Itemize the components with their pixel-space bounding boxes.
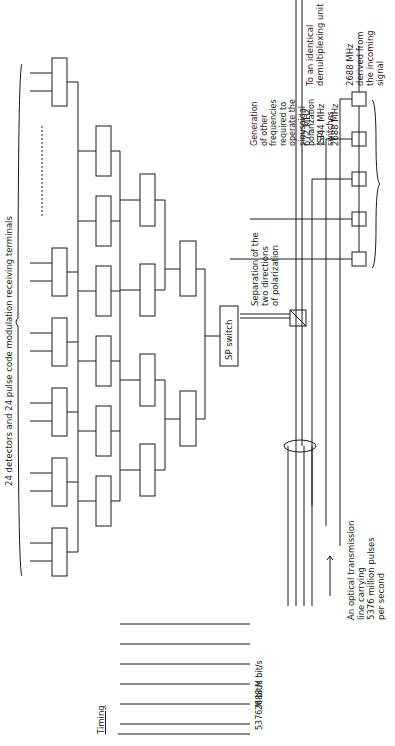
polarization-label: Separation of the two directions of pola… <box>250 232 280 306</box>
frequency-label-1: 1344 MHz <box>316 103 326 146</box>
clock-label: 2688 MHz derived from the incoming signa… <box>345 30 385 86</box>
timing-pulse-trains <box>120 624 250 724</box>
sp-switch-tree <box>16 58 238 576</box>
timing-rate-1: 2688 M bit/s <box>255 660 265 710</box>
frequency-label-0: 2688 MHz <box>330 103 340 146</box>
output-label: To an identical demultiplexing unit <box>305 3 325 86</box>
optical-line-label: An optical transmission line carrying 53… <box>346 521 386 620</box>
frequency-label-2: 672 MHz <box>302 109 312 146</box>
sp-switch-root: SP switch <box>224 320 234 360</box>
demultiplexer-diagram: Timing 5376 M bit/s 2688 M bit/s An opti… <box>0 0 395 746</box>
terminals-label: 24 detectors and 24 pulse code modulatio… <box>4 216 14 486</box>
timing-title: Timing <box>96 705 106 734</box>
